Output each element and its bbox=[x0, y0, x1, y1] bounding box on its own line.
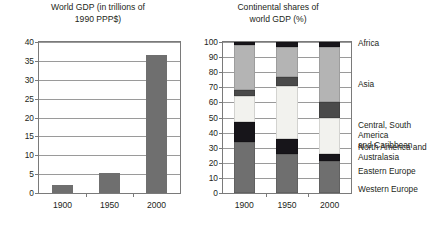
world-gdp-ytick-label: 15 bbox=[25, 131, 39, 141]
continental-shares-ytick-label: 90 bbox=[209, 52, 223, 62]
world-gdp-ytick-label: 5 bbox=[29, 169, 39, 179]
bar-1950 bbox=[99, 173, 121, 193]
x-tick-mark bbox=[266, 193, 267, 197]
continental-shares-ytick-label: 30 bbox=[209, 143, 223, 153]
legend-item: Asia bbox=[358, 79, 441, 89]
segment-eastern-europe bbox=[234, 122, 255, 142]
segment-north-america-and-australasia bbox=[276, 86, 297, 139]
segment-asia bbox=[234, 45, 255, 90]
legend-item: Eastern Europe bbox=[358, 166, 441, 176]
legend-item: Western Europe bbox=[358, 184, 441, 194]
segment-north-america-and-australasia bbox=[319, 118, 340, 154]
continental-shares-ytick-label: 60 bbox=[209, 97, 223, 107]
segment-central-south-america-and-caribbean bbox=[234, 90, 255, 96]
continental-shares-ytick-label: 0 bbox=[213, 188, 223, 198]
segment-western-europe bbox=[234, 142, 255, 193]
segment-eastern-europe bbox=[276, 139, 297, 154]
continental-shares-ytick-label: 10 bbox=[209, 173, 223, 183]
segment-asia bbox=[319, 47, 340, 103]
bar-1900 bbox=[52, 185, 74, 193]
continental-shares-xtick-label: 1950 bbox=[277, 200, 296, 210]
plot-area-world-gdp: 0510152025303540190019502000 bbox=[38, 41, 181, 194]
continental-shares-xtick-label: 1900 bbox=[235, 200, 254, 210]
figure-root: World GDP (in trillions of 1990 PPP$) 05… bbox=[0, 0, 441, 232]
continental-shares-ytick-label: 40 bbox=[209, 128, 223, 138]
world-gdp-ytick-label: 35 bbox=[25, 56, 39, 66]
world-gdp-ytick-label: 40 bbox=[25, 37, 39, 47]
world-gdp-ytick-label: 20 bbox=[25, 113, 39, 123]
segment-north-america-and-australasia bbox=[234, 96, 255, 122]
x-tick-mark bbox=[133, 193, 134, 197]
continental-shares-xtick-label: 2000 bbox=[320, 200, 339, 210]
segment-western-europe bbox=[319, 161, 340, 193]
world-gdp-ytick-label: 30 bbox=[25, 75, 39, 85]
segment-africa bbox=[234, 42, 255, 45]
continental-shares-ytick-label: 50 bbox=[209, 113, 223, 123]
chart-title-continental-shares: Continental shares of world GDP (%) bbox=[198, 2, 358, 25]
world-gdp-xtick-label: 1900 bbox=[53, 200, 72, 210]
legend-item: North America and Australasia bbox=[358, 142, 441, 162]
world-gdp-ytick-label: 0 bbox=[29, 188, 39, 198]
stacked-bar-1900 bbox=[234, 42, 255, 193]
continental-shares-ytick-label: 20 bbox=[209, 158, 223, 168]
continental-shares-ytick-label: 80 bbox=[209, 67, 223, 77]
segment-western-europe bbox=[276, 154, 297, 193]
continental-shares-ytick-label: 70 bbox=[209, 82, 223, 92]
legend-item: Africa bbox=[358, 38, 441, 48]
stacked-bar-2000 bbox=[319, 42, 340, 193]
world-gdp-ytick-label: 25 bbox=[25, 94, 39, 104]
x-tick-mark bbox=[86, 193, 87, 197]
segment-africa bbox=[276, 42, 297, 47]
segment-central-south-america-and-caribbean bbox=[276, 77, 297, 86]
plot-area-continental-shares: 0102030405060708090100190019502000 bbox=[222, 41, 352, 194]
gridline bbox=[39, 42, 180, 43]
segment-eastern-europe bbox=[319, 154, 340, 162]
bar-2000 bbox=[146, 55, 168, 193]
x-tick-mark bbox=[308, 193, 309, 197]
chart-world-gdp: World GDP (in trillions of 1990 PPP$) 05… bbox=[0, 0, 196, 232]
chart-title-world-gdp: World GDP (in trillions of 1990 PPP$) bbox=[8, 2, 188, 25]
chart-continental-shares: Continental shares of world GDP (%) 0102… bbox=[196, 0, 441, 232]
world-gdp-xtick-label: 2000 bbox=[147, 200, 166, 210]
segment-africa bbox=[319, 42, 340, 47]
world-gdp-ytick-label: 10 bbox=[25, 150, 39, 160]
segment-asia bbox=[276, 47, 297, 77]
world-gdp-xtick-label: 1950 bbox=[100, 200, 119, 210]
segment-central-south-america-and-caribbean bbox=[319, 102, 340, 117]
continental-shares-ytick-label: 100 bbox=[204, 37, 223, 47]
stacked-bar-1950 bbox=[276, 42, 297, 193]
